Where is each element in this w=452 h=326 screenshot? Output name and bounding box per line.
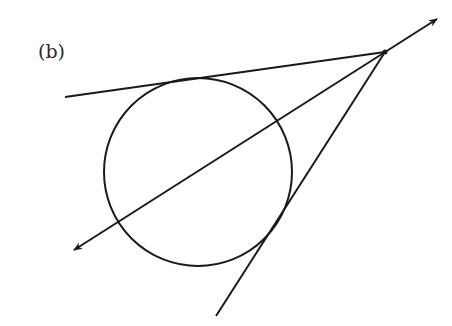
secant-line-arrow bbox=[74, 19, 437, 250]
geometry-diagram bbox=[0, 0, 452, 326]
external-point bbox=[383, 50, 388, 55]
lower-tangent-line bbox=[216, 52, 385, 316]
upper-tangent-line bbox=[65, 52, 385, 97]
